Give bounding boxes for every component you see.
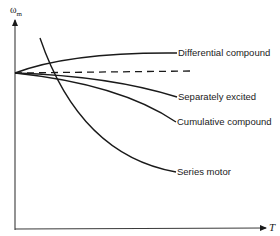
y-axis-label: ωm — [10, 5, 22, 18]
x-axis — [15, 228, 266, 229]
x-axis-label: T — [269, 222, 275, 233]
curve-reference-dashed — [15, 71, 192, 73]
y-axis-symbol: ω — [10, 4, 17, 15]
label-differential-compound: Differential compound — [178, 48, 270, 58]
label-separately-excited: Separately excited — [178, 92, 256, 102]
y-axis-subscript: m — [17, 10, 22, 18]
label-cumulative-compound: Cumulative compound — [177, 117, 272, 127]
curve-series-motor — [40, 38, 176, 172]
speed-torque-diagram: ωm T Differential compound Separately ex… — [0, 0, 280, 236]
curve-cumulative-compound — [15, 73, 176, 122]
label-series-motor: Series motor — [177, 167, 231, 177]
curve-differential-compound — [15, 53, 177, 73]
